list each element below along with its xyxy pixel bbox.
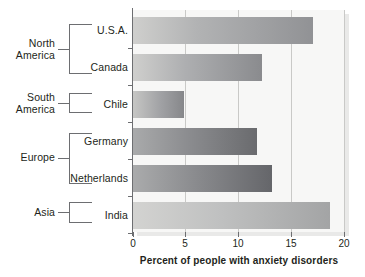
x-tick-label-10: 10 [232,238,243,249]
x-tick-label-0: 0 [130,238,136,249]
y-tick-1 [128,85,133,86]
bar-netherlands [133,165,272,192]
bracket-stem-europe [58,158,70,159]
gridline-20 [344,10,345,232]
y-tick-0 [128,48,133,49]
region-label-north-america: North America [3,38,55,61]
category-label-india: India [105,210,128,222]
region-label-asia: Asia [3,207,55,219]
region-label-south-america: South America [3,92,55,115]
y-tick-2 [128,122,133,123]
category-label-column: U.S.A. Canada Chile Germany Netherlands … [0,0,133,232]
category-label-canada: Canada [91,62,128,74]
x-tick-10 [238,232,239,237]
x-tick-label-15: 15 [285,238,296,249]
category-label-usa: U.S.A. [97,25,128,37]
category-label-chile: Chile [104,99,128,111]
bracket-stem-asia [58,212,70,213]
bar-germany [133,128,257,155]
y-tick-3 [128,159,133,160]
x-tick-label-5: 5 [182,238,188,249]
bar-chile [133,91,184,118]
bracket-stem-south-america [58,103,70,104]
bracket-north-america [69,24,92,74]
x-tick-20 [344,232,345,237]
bracket-south-america [69,93,92,113]
bracket-stem-north-america [58,49,70,50]
bar-usa [133,17,313,44]
x-tick-15 [291,232,292,237]
bracket-europe [69,133,92,184]
y-tick-4 [128,196,133,197]
bar-canada [133,54,262,81]
x-axis-label: Percent of people with anxiety disorders [133,255,345,266]
x-tick-5 [185,232,186,237]
anxiety-disorders-bar-chart: 0 5 10 15 20 Percent of people with anxi… [0,0,365,277]
x-tick-label-20: 20 [338,238,349,249]
region-label-europe: Europe [3,152,55,164]
bracket-asia [69,202,92,223]
bar-india [133,202,330,229]
x-tick-0 [133,232,134,237]
